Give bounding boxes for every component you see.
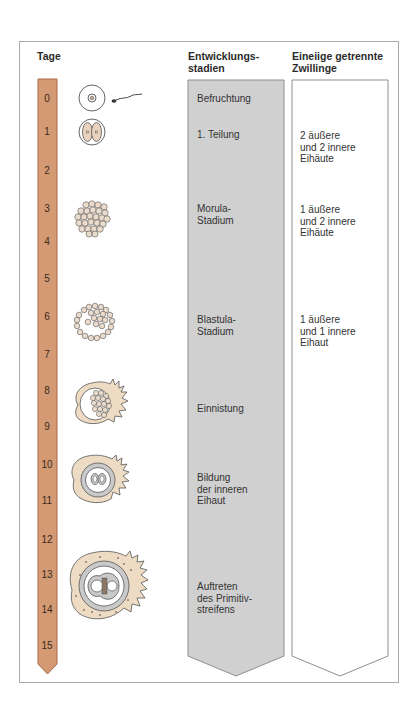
day-label: 2 <box>38 165 56 176</box>
morula-icon <box>75 201 110 237</box>
day-label: 7 <box>38 349 56 360</box>
day-label: 15 <box>38 640 56 651</box>
twins-one-outer-two-inner: 1 äußere und 2 innere Eihäute <box>300 204 356 239</box>
twins-two-outer-two-inner: 2 äußere und 2 innere Eihäute <box>300 130 356 165</box>
day-label: 10 <box>38 459 56 470</box>
stage-primitive-streak: Auftreten des Primitiv- streifens <box>197 581 252 616</box>
day-label: 9 <box>38 421 56 432</box>
stage-first-division: 1. Teilung <box>197 129 240 141</box>
day-label: 1 <box>38 126 56 137</box>
twins-one-outer-one-inner: 1 äußere und 1 innere Eihaut <box>300 314 356 349</box>
day-label: 14 <box>38 604 56 615</box>
day-label: 5 <box>38 273 56 284</box>
zygote-with-sperm-icon <box>79 85 142 111</box>
stage-implantation: Einnistung <box>197 403 244 415</box>
day-label: 8 <box>38 385 56 396</box>
day-label: 13 <box>38 569 56 580</box>
inner-membrane-formation-icon <box>72 455 129 503</box>
twins-column <box>292 80 388 676</box>
two-cell-stage-icon <box>79 119 105 145</box>
day-label: 0 <box>38 93 56 104</box>
primitive-streak-icon <box>70 551 148 619</box>
stage-fertilization: Befruchtung <box>197 93 251 105</box>
day-label: 3 <box>38 203 56 214</box>
stage-inner-membrane: Bildung der inneren Eihaut <box>197 472 248 507</box>
stage-morula: Morula- Stadium <box>197 203 234 226</box>
day-label: 6 <box>38 311 56 322</box>
day-label: 4 <box>38 236 56 247</box>
implantation-icon <box>76 379 128 424</box>
day-label: 11 <box>38 495 56 506</box>
stage-blastula: Blastula- Stadium <box>197 314 236 337</box>
blastula-icon <box>74 303 115 341</box>
day-label: 12 <box>38 534 56 545</box>
